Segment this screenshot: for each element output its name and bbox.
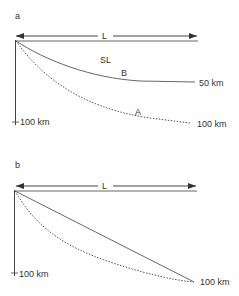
length-label-b: L bbox=[102, 181, 107, 191]
curve-a bbox=[16, 41, 190, 123]
length-label-a: L bbox=[102, 31, 107, 41]
curve-a-depth-label: 100 km bbox=[197, 119, 227, 129]
curve-label-a: A bbox=[135, 107, 141, 117]
panel-label-a: a bbox=[15, 11, 20, 21]
diagram: a L 100 km SL B 50 km A 100 km b L 100 k… bbox=[0, 0, 239, 296]
panel-label-b: b bbox=[15, 160, 20, 170]
panel-b: b L 100 km 100 km bbox=[11, 160, 230, 287]
surface-label-sl: SL bbox=[100, 55, 111, 65]
curve-b-depth-label: 50 km bbox=[199, 78, 224, 88]
end-depth-label-b: 100 km bbox=[200, 277, 230, 287]
depth-label-a: 100 km bbox=[20, 117, 50, 127]
curve-label-b: B bbox=[121, 68, 127, 78]
depth-label-b: 100 km bbox=[19, 269, 49, 279]
panel-a: a L 100 km SL B 50 km A 100 km bbox=[12, 11, 227, 129]
